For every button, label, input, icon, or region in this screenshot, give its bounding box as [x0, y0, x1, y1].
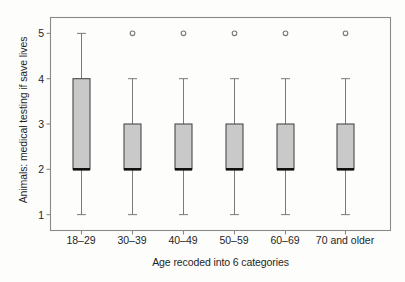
- x-tick-label-6: 70 and older: [300, 234, 390, 247]
- x-axis-tick-labels: 18–2930–3940–4950–5960–6970 and older: [0, 234, 405, 250]
- box-rect: [337, 124, 354, 169]
- box-rect: [124, 124, 141, 169]
- y-axis-title: Animals: medical testing if save lives: [14, 4, 32, 236]
- x-axis-title: Age recoded into 6 categories: [50, 256, 391, 268]
- box-rect: [175, 124, 192, 169]
- box-rect: [277, 124, 294, 169]
- boxplot-figure: 12345 18–2930–3940–4950–5960–6970 and ol…: [0, 0, 405, 282]
- box-rect: [226, 124, 243, 169]
- box-rect: [73, 79, 90, 170]
